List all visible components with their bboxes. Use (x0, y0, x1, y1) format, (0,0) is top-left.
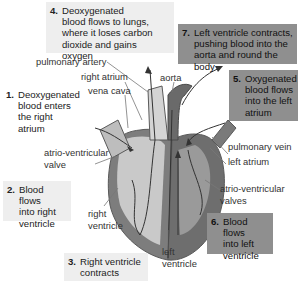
step-number: 5. (233, 73, 241, 84)
step-3-box: 3. Right ventricle contracts (64, 253, 148, 281)
label-aorta: aorta (160, 72, 181, 83)
step-text-line: Oxygenated (233, 73, 294, 84)
step-text-line: atrium (233, 107, 294, 118)
label-right-atrium: right atrium (81, 71, 128, 82)
step-text-line: into the left (233, 95, 294, 106)
step-text-line: pushing blood into the (182, 38, 293, 49)
label-pulmonary-artery: pulmonary artery (36, 56, 106, 67)
step-4-box: 4. Deoxygenated blood flows to lungs, wh… (46, 2, 174, 53)
step-number: 4. (50, 5, 58, 16)
step-text-line: Left ventricle contracts, (182, 27, 293, 38)
label-av-valve-right: atrio-ventricular (44, 147, 109, 158)
step-text-line: blood flows to lungs, (50, 16, 170, 27)
step-text-line: blood enters (6, 100, 80, 111)
step-number: 2. (7, 184, 15, 195)
label-pulmonary-vein: pulmonary vein (228, 141, 292, 152)
step-text-line: Deoxygenated (6, 89, 80, 100)
step-2-box: 2. Blood flows into right ventricle (3, 181, 71, 221)
label-left-ventricle: left (162, 246, 175, 257)
step-number: 1. (6, 89, 14, 100)
label-av-valve-right-line2: valve (44, 159, 66, 170)
label-av-valves-left: atrio-ventricular (220, 183, 285, 194)
step-text-line: ventricle (7, 218, 67, 229)
step-number: 6. (211, 216, 219, 227)
step-text-line: the right atrium (6, 111, 80, 133)
label-left-ventricle-line2: ventricle (162, 258, 197, 269)
step-text-line: into left (211, 238, 269, 249)
label-left-atrium: left atrium (228, 156, 269, 167)
step-text-line: Blood flows (211, 216, 269, 238)
label-vena-cava: vena cava (88, 85, 131, 96)
arrow-head-up-lungs (145, 66, 152, 74)
step-text-line: into right (7, 206, 67, 217)
step-text-line: blood flows (233, 84, 294, 95)
step-5-box: 5. Oxygenated blood flows into the left … (229, 70, 298, 121)
step-text-line: where it loses carbon (50, 27, 170, 38)
step-7-box: 7. Left ventricle contracts, pushing blo… (178, 24, 297, 64)
step-text-line: contracts (68, 267, 144, 278)
step-text-line: aorta and round the body (182, 49, 293, 71)
step-number: 3. (68, 256, 76, 267)
step-text-line: ventricle (211, 250, 269, 261)
step-text-line: Deoxygenated (50, 5, 170, 16)
label-right-ventricle: right (88, 208, 106, 219)
label-av-valves-left-line2: valves (220, 195, 247, 206)
step-1-box: 1. Deoxygenated blood enters the right a… (2, 86, 84, 126)
step-text-line: Blood flows (7, 184, 67, 206)
step-6-box: 6. Blood flows into left ventricle (207, 213, 273, 254)
step-text-line: Right ventricle (68, 256, 144, 267)
label-right-ventricle-line2: ventricle (88, 220, 123, 231)
pulmonary-artery-vessel (148, 86, 168, 140)
step-number: 7. (182, 27, 190, 38)
